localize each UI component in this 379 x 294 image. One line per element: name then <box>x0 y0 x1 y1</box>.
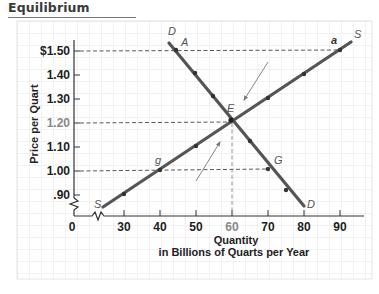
x-tick-label: 90 <box>333 220 347 234</box>
x-tick-label: 70 <box>261 220 275 234</box>
label-demand-bottom: D <box>307 198 315 210</box>
x-tick-label: 40 <box>153 220 167 234</box>
grid-background <box>17 21 372 279</box>
x-axis-title-line2: in Billions of Quarts per Year <box>159 246 311 258</box>
x-axis-title-line1: Quantity <box>214 234 259 246</box>
y-tick-label: 1.10 <box>47 140 71 154</box>
label-point-A: A <box>180 36 188 48</box>
y-tick-label: .90 <box>53 188 70 202</box>
equilibrium-point <box>228 117 233 122</box>
y-tick-label: $1.50 <box>40 44 70 58</box>
label-point-g: g <box>155 154 162 166</box>
label-point-G: G <box>274 154 283 166</box>
label-supply-bottom: S <box>94 198 102 210</box>
y-tick-label: 1.30 <box>47 92 71 106</box>
label-point-E: E <box>227 102 235 114</box>
equilibrium-chart: $1.50 1.40 1.30 1.20 1.10 1.00 .90 0 30 … <box>0 0 379 294</box>
label-demand-top: D <box>168 25 176 37</box>
label-point-a: a <box>331 34 337 46</box>
x-tick-label: 60 <box>225 220 239 234</box>
x-tick-label: 0 <box>69 220 76 234</box>
x-tick-label: 80 <box>297 220 311 234</box>
y-tick-label: 1.20 <box>47 116 71 130</box>
y-tick-label: 1.00 <box>47 164 71 178</box>
y-axis-title: Price per Quart <box>28 84 40 164</box>
x-tick-label: 30 <box>117 220 131 234</box>
x-tick-label: 50 <box>189 220 203 234</box>
label-supply-top: S <box>354 28 362 40</box>
y-tick-label: 1.40 <box>47 68 71 82</box>
